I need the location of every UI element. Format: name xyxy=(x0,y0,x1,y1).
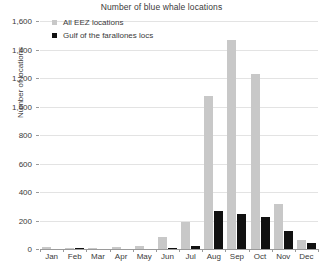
y-tick-mark xyxy=(36,78,39,79)
y-tick-label: 600 xyxy=(19,159,32,168)
bar-oct-eez xyxy=(251,74,260,249)
y-tick-label: 1,000 xyxy=(12,102,32,111)
bar-mar-eez xyxy=(88,248,97,249)
x-tick-mark xyxy=(318,249,319,252)
bar-jun-eez xyxy=(158,237,167,249)
bar-apr-eez xyxy=(112,247,121,249)
x-tick-label-aug: Aug xyxy=(207,252,221,261)
x-tick-label-may: May xyxy=(137,252,152,261)
blue-whale-locations-chart: Number of blue whale locations Number of… xyxy=(0,0,323,270)
bar-dec-gulf xyxy=(307,243,316,249)
bar-aug-gulf xyxy=(214,211,223,249)
y-tick-mark xyxy=(36,21,39,22)
chart-legend: All EEZ locationsGulf of the farallones … xyxy=(52,16,153,42)
x-tick-mark xyxy=(179,249,180,252)
bar-jul-gulf xyxy=(191,246,200,249)
x-axis-labels: JanFebMarAprMayJunJulAugSepOctNovDec xyxy=(40,252,318,268)
bar-jun-gulf xyxy=(168,248,177,249)
y-tick-label: 1,200 xyxy=(12,74,32,83)
x-tick-label-nov: Nov xyxy=(276,252,290,261)
bar-sep-eez xyxy=(227,40,236,249)
bar-dec-eez xyxy=(297,240,306,249)
bar-jul-eez xyxy=(181,222,190,249)
y-tick-mark xyxy=(36,135,39,136)
legend-label: All EEZ locations xyxy=(63,18,123,27)
y-tick-mark xyxy=(36,249,39,250)
x-tick-label-jul: Jul xyxy=(185,252,195,261)
gridline xyxy=(40,50,318,51)
bar-nov-gulf xyxy=(284,231,293,249)
x-tick-mark xyxy=(156,249,157,252)
x-tick-mark xyxy=(63,249,64,252)
x-tick-mark xyxy=(272,249,273,252)
gridline xyxy=(40,192,318,193)
legend-swatch-icon-gulf xyxy=(52,33,57,38)
legend-label: Gulf of the farallones locs xyxy=(63,31,153,40)
x-tick-mark xyxy=(225,249,226,252)
x-tick-label-oct: Oct xyxy=(254,252,266,261)
bar-aug-eez xyxy=(204,96,213,249)
gridline xyxy=(40,135,318,136)
bar-feb-gulf xyxy=(75,248,84,249)
x-tick-mark xyxy=(249,249,250,252)
y-axis-labels: 02004006008001,0001,2001,4001,600 xyxy=(0,21,36,249)
gridline xyxy=(40,78,318,79)
bar-oct-gulf xyxy=(261,217,270,249)
y-tick-label: 400 xyxy=(19,188,32,197)
y-tick-label: 0 xyxy=(28,245,32,254)
y-tick-label: 1,400 xyxy=(12,45,32,54)
x-tick-label-jun: Jun xyxy=(161,252,174,261)
x-tick-label-apr: Apr xyxy=(115,252,127,261)
x-tick-mark xyxy=(110,249,111,252)
y-tick-mark xyxy=(36,221,39,222)
legend-swatch-icon-eez xyxy=(52,20,57,25)
x-tick-label-mar: Mar xyxy=(91,252,105,261)
y-tick-mark xyxy=(36,164,39,165)
x-tick-mark xyxy=(40,249,41,252)
bar-may-eez xyxy=(135,246,144,249)
x-tick-label-sep: Sep xyxy=(230,252,244,261)
x-tick-label-jan: Jan xyxy=(45,252,58,261)
bar-sep-gulf xyxy=(237,214,246,249)
bar-feb-eez xyxy=(65,248,74,249)
x-tick-mark xyxy=(86,249,87,252)
x-tick-label-dec: Dec xyxy=(299,252,313,261)
x-tick-mark xyxy=(295,249,296,252)
plot-area xyxy=(40,21,318,249)
y-tick-label: 1,600 xyxy=(12,17,32,26)
bar-jan-eez xyxy=(42,247,51,249)
gridline xyxy=(40,164,318,165)
legend-item-gulf[interactable]: Gulf of the farallones locs xyxy=(52,29,153,41)
x-tick-mark xyxy=(202,249,203,252)
y-tick-mark xyxy=(36,107,39,108)
y-tick-label: 800 xyxy=(19,131,32,140)
chart-title: Number of blue whale locations xyxy=(0,2,323,12)
gridline xyxy=(40,107,318,108)
x-tick-mark xyxy=(133,249,134,252)
y-tick-mark xyxy=(36,192,39,193)
legend-item-eez[interactable]: All EEZ locations xyxy=(52,16,153,28)
bar-nov-eez xyxy=(274,204,283,249)
x-tick-label-feb: Feb xyxy=(68,252,82,261)
y-tick-mark xyxy=(36,50,39,51)
y-tick-label: 200 xyxy=(19,216,32,225)
